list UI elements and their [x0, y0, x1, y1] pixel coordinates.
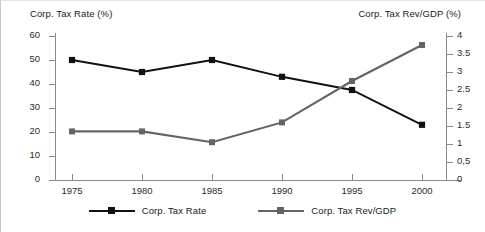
legend-item[interactable]: Corp. Tax Rate	[89, 205, 207, 216]
right-axis-ticks	[447, 37, 454, 181]
data-point-marker	[419, 42, 425, 48]
x-axis-tick-label: 1990	[262, 185, 302, 196]
plot-area	[0, 0, 485, 232]
data-point-marker	[209, 139, 215, 145]
left-axis-tick-label: 50	[14, 53, 40, 64]
right-axis-tick-label: 2.5	[457, 83, 470, 94]
data-point-marker	[69, 57, 75, 63]
legend-label: Corp. Tax Rev/GDP	[311, 205, 396, 216]
series-layer	[69, 42, 425, 145]
x-axis-tick-label: 1995	[332, 185, 372, 196]
x-axis-tick-label: 1975	[52, 185, 92, 196]
legend-square-marker-icon	[277, 207, 284, 214]
data-point-marker	[279, 74, 285, 80]
legend-item[interactable]: Corp. Tax Rev/GDP	[258, 205, 396, 216]
series-line-1	[72, 60, 422, 125]
left-axis-tick-label: 20	[14, 125, 40, 136]
left-axis-tick-label: 30	[14, 101, 40, 112]
x-axis-ticks	[73, 174, 423, 181]
right-axis-tick-label: 4	[457, 29, 462, 40]
data-point-marker	[349, 87, 355, 93]
right-axis-tick-label: 1	[457, 137, 462, 148]
x-axis-tick-label: 2000	[402, 185, 442, 196]
legend-line-marker-icon	[89, 206, 135, 215]
left-axis-ticks	[49, 37, 56, 181]
data-point-marker	[69, 128, 75, 134]
series-line-2	[72, 45, 422, 142]
data-point-marker	[349, 78, 355, 84]
right-axis-tick-label: 3	[457, 65, 462, 76]
data-point-marker	[139, 69, 145, 75]
chart-legend: Corp. Tax RateCorp. Tax Rev/GDP	[0, 205, 485, 216]
right-axis-tick-label: 0,5	[457, 155, 470, 166]
right-axis-tick-label: 3.5	[457, 47, 470, 58]
right-axis-tick-label: 1.5	[457, 119, 470, 130]
left-axis-tick-label: 10	[14, 149, 40, 160]
left-axis-tick-label: 60	[14, 29, 40, 40]
data-point-marker	[279, 119, 285, 125]
right-axis-tick-label: 2	[457, 101, 462, 112]
x-axis-tick-label: 1985	[192, 185, 232, 196]
x-axis-tick-label: 1980	[122, 185, 162, 196]
data-point-marker	[209, 57, 215, 63]
data-point-marker	[139, 128, 145, 134]
data-point-marker	[419, 122, 425, 128]
left-axis-tick-label: 0	[14, 173, 40, 184]
right-axis-tick-label: 0	[457, 173, 462, 184]
legend-square-marker-icon	[108, 207, 115, 214]
legend-line-marker-icon	[258, 206, 304, 215]
chart-figure: Corp. Tax Rate (%) Corp. Tax Rev/GDP (%)…	[0, 0, 485, 232]
legend-label: Corp. Tax Rate	[142, 205, 207, 216]
left-axis-tick-label: 40	[14, 77, 40, 88]
